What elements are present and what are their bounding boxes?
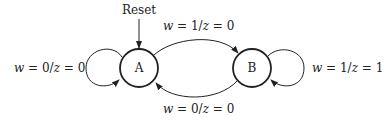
transition-b-a-label: w = 0/z = 0	[163, 102, 234, 116]
transition-a-b-label: w = 1/z = 0	[163, 19, 234, 33]
transition-a-to-b	[154, 40, 238, 55]
state-a-label: A	[134, 61, 144, 75]
transition-a-self-loop	[86, 49, 122, 86]
reset-label: Reset	[122, 3, 156, 17]
state-b-label: B	[248, 61, 257, 75]
transition-b-to-a	[156, 81, 237, 97]
transition-b-b-label: w = 1/z = 1	[312, 61, 383, 75]
transition-a-a-label: w = 0/z = 0	[14, 61, 85, 75]
transition-b-self-loop	[268, 50, 304, 86]
state-diagram: Reset A B w = 0/z = 0 w = 1/z = 0 w = 0/…	[0, 0, 389, 122]
state-a: A	[120, 49, 158, 87]
state-b: B	[233, 49, 271, 87]
